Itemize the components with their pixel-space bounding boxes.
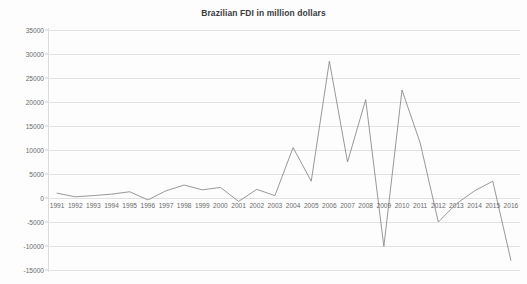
chart-title: Brazilian FDI in million dollars [0,8,527,18]
y-axis-tick-label: 5000 [0,171,44,178]
y-axis-tick-label: -10000 [0,243,44,250]
x-axis-tick-label: 2009 [377,202,392,209]
x-axis-tick-label: 1999 [195,202,210,209]
x-axis-tick-label: 2013 [449,202,464,209]
x-axis-tick-label: 1993 [86,202,101,209]
x-axis-tick-label: 2006 [322,202,337,209]
x-axis-tick-label: 2015 [485,202,500,209]
y-axis-tick-label: 0 [0,195,44,202]
x-axis-tick-label: 2004 [286,202,301,209]
series-polyline [57,61,511,260]
y-axis-tick-label: 20000 [0,99,44,106]
x-axis-tick-label: 2008 [358,202,373,209]
x-axis-tick-label: 2012 [431,202,446,209]
x-axis-tick-label: 1994 [104,202,119,209]
y-axis-tick-label: 30000 [0,51,44,58]
x-axis-tick-label: 2014 [467,202,482,209]
x-axis-tick-label: 2016 [504,202,519,209]
y-axis-tick-label: 10000 [0,147,44,154]
x-axis-tick-label: 2007 [340,202,355,209]
y-axis-tick-label: -5000 [0,219,44,226]
x-axis-tick-label: 2010 [395,202,410,209]
gridline [48,270,520,271]
x-axis-tick-label: 1996 [141,202,156,209]
x-axis-tick-label: 2003 [268,202,283,209]
x-axis-tick-label: 1991 [50,202,65,209]
x-axis-tick-label: 1998 [177,202,192,209]
chart-container: Brazilian FDI in million dollars 3500030… [0,0,527,284]
y-axis-tick-label: 15000 [0,123,44,130]
x-axis-tick-label: 2000 [213,202,228,209]
data-series-line [48,30,520,270]
x-axis-tick-label: 2001 [231,202,246,209]
y-axis-tick-label: -15000 [0,267,44,274]
x-axis-tick-label: 2011 [413,202,427,209]
x-axis-tick-label: 1992 [68,202,83,209]
x-axis-tick-label: 2002 [249,202,264,209]
x-axis-tick-label: 2005 [304,202,319,209]
x-axis-tick-label: 1997 [159,202,174,209]
y-axis-tick-label: 35000 [0,27,44,34]
x-axis-tick-label: 1995 [122,202,137,209]
y-axis-tick-label: 25000 [0,75,44,82]
